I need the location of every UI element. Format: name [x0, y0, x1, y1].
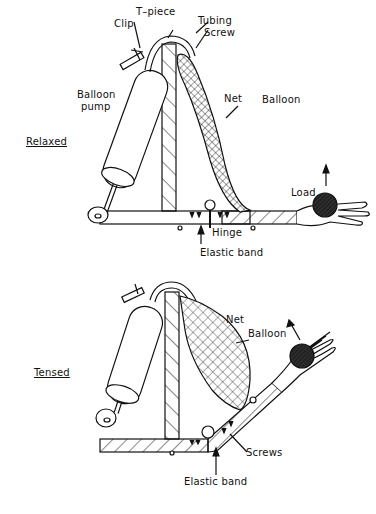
label-screw: Screw: [204, 28, 235, 38]
pump-handle: [88, 207, 108, 223]
label-elastic-band: Elastic band: [200, 248, 263, 258]
load-ball: [290, 344, 314, 368]
forearm: [222, 211, 297, 224]
balloon-pump: [100, 302, 167, 418]
label-balloon-pump-2: pump: [81, 102, 111, 112]
label-elastic-band: Elastic band: [184, 477, 247, 487]
label-t-piece: T–piece: [136, 7, 175, 17]
label-net: Net: [226, 315, 244, 325]
label-clip: Clip: [114, 19, 134, 29]
clip: [120, 52, 144, 69]
label-hinge: Hinge: [212, 228, 242, 238]
label-net: Net: [224, 94, 242, 104]
diagram-canvas: [0, 0, 376, 514]
label-balloon-pump-1: Balloon: [77, 90, 116, 100]
hinge-ring: [202, 426, 214, 438]
label-screws: Screws: [246, 448, 282, 458]
clip: [122, 288, 144, 303]
load-ball: [313, 193, 337, 217]
vertical-post: [165, 292, 179, 439]
tensed-apparatus: [96, 282, 335, 475]
label-tubing: Tubing: [198, 16, 232, 26]
hinge-ring: [205, 200, 215, 210]
label-balloon: Balloon: [248, 329, 287, 339]
relaxed-apparatus: [86, 22, 369, 244]
label-load: Load: [291, 188, 316, 198]
state-label-relaxed: Relaxed: [26, 137, 67, 147]
net-balloon: [177, 54, 250, 212]
label-balloon: Balloon: [262, 95, 301, 105]
state-label-tensed: Tensed: [34, 368, 70, 378]
vertical-post: [162, 44, 176, 211]
